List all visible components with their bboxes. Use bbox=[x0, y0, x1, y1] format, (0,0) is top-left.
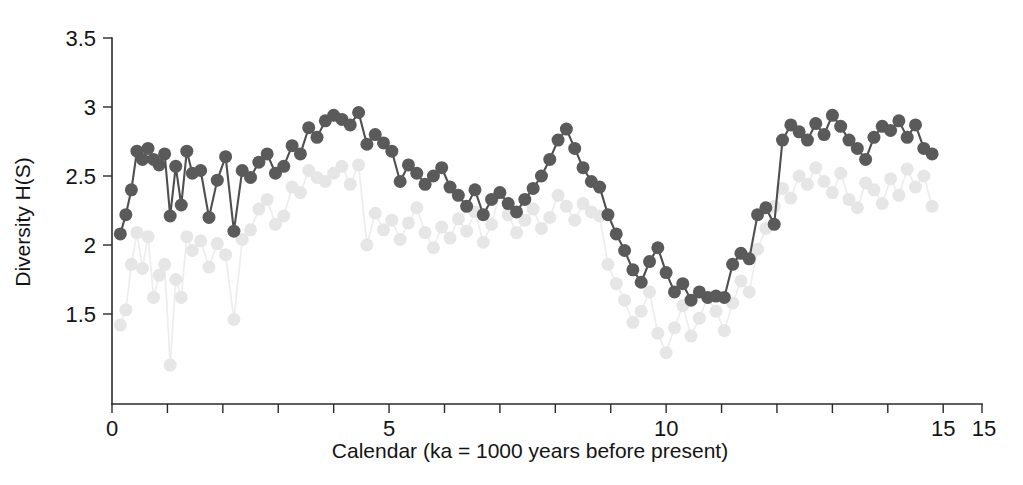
chart-canvas: 1.522.533.505101515 Calendar (ka = 1000 … bbox=[0, 0, 1023, 485]
data-point bbox=[635, 305, 648, 318]
data-point bbox=[352, 158, 365, 171]
data-point bbox=[543, 211, 556, 224]
data-point bbox=[577, 161, 590, 174]
data-point bbox=[142, 142, 155, 155]
axis-layer: 1.522.533.505101515 bbox=[65, 26, 996, 441]
data-point bbox=[834, 167, 847, 180]
data-point bbox=[410, 167, 423, 180]
data-point bbox=[202, 261, 215, 274]
data-point bbox=[125, 258, 138, 271]
data-point bbox=[909, 181, 922, 194]
data-point bbox=[410, 201, 423, 214]
data-point bbox=[158, 147, 171, 160]
data-point bbox=[618, 244, 631, 257]
data-point bbox=[277, 160, 290, 173]
data-point bbox=[668, 321, 681, 334]
data-point bbox=[568, 142, 581, 155]
data-point bbox=[834, 120, 847, 133]
data-point bbox=[718, 324, 731, 337]
data-point bbox=[493, 186, 506, 199]
data-point bbox=[892, 114, 905, 127]
data-point bbox=[211, 174, 224, 187]
data-point bbox=[477, 208, 490, 221]
x-tick-label: 5 bbox=[383, 416, 395, 441]
data-point bbox=[452, 212, 465, 225]
data-point bbox=[685, 330, 698, 343]
data-point bbox=[142, 230, 155, 243]
data-point bbox=[651, 327, 664, 340]
data-point bbox=[394, 175, 407, 188]
data-point bbox=[158, 258, 171, 271]
data-point bbox=[851, 201, 864, 214]
data-point bbox=[344, 118, 357, 131]
data-point bbox=[693, 312, 706, 325]
data-point bbox=[261, 193, 274, 206]
data-point bbox=[560, 200, 573, 213]
data-point bbox=[543, 153, 556, 166]
data-point bbox=[114, 319, 127, 332]
data-point bbox=[560, 123, 573, 136]
data-point bbox=[892, 189, 905, 202]
data-point bbox=[926, 147, 939, 160]
data-point bbox=[552, 134, 565, 147]
data-point bbox=[926, 200, 939, 213]
data-point bbox=[818, 175, 831, 188]
data-point bbox=[227, 313, 240, 326]
data-point bbox=[626, 263, 639, 276]
data-point bbox=[909, 118, 922, 131]
data-point bbox=[610, 277, 623, 290]
data-point bbox=[219, 150, 232, 163]
data-point bbox=[518, 193, 531, 206]
data-point bbox=[136, 153, 149, 166]
data-point bbox=[147, 291, 160, 304]
x-tick-label: 15 bbox=[931, 416, 955, 441]
data-point bbox=[809, 117, 822, 130]
data-point bbox=[768, 218, 781, 231]
data-point bbox=[153, 269, 166, 282]
data-point bbox=[194, 164, 207, 177]
data-point bbox=[601, 258, 614, 271]
data-point bbox=[568, 214, 581, 227]
data-point bbox=[867, 131, 880, 144]
data-point bbox=[180, 145, 193, 158]
data-point bbox=[435, 221, 448, 234]
data-point bbox=[219, 248, 232, 261]
data-point bbox=[153, 158, 166, 171]
data-point bbox=[784, 192, 797, 205]
data-point bbox=[227, 225, 240, 238]
data-point bbox=[394, 233, 407, 246]
y-tick-label: 1.5 bbox=[65, 302, 96, 327]
data-point bbox=[244, 223, 257, 236]
data-point bbox=[510, 226, 523, 239]
x-axis-title: Calendar (ka = 1000 years before present… bbox=[332, 439, 728, 462]
data-point bbox=[369, 207, 382, 220]
data-point bbox=[643, 255, 656, 268]
data-point bbox=[180, 230, 193, 243]
data-point bbox=[360, 239, 373, 252]
data-point bbox=[164, 210, 177, 223]
data-point bbox=[867, 183, 880, 196]
data-point bbox=[726, 258, 739, 271]
data-point bbox=[194, 234, 207, 247]
data-point bbox=[593, 181, 606, 194]
data-point bbox=[136, 262, 149, 275]
data-point bbox=[344, 178, 357, 191]
data-point bbox=[460, 200, 473, 213]
data-point bbox=[610, 227, 623, 240]
data-point bbox=[618, 294, 631, 307]
data-point bbox=[114, 227, 127, 240]
data-point bbox=[876, 197, 889, 210]
data-point bbox=[809, 161, 822, 174]
x-tick-label: 10 bbox=[654, 416, 678, 441]
data-point bbox=[743, 252, 756, 265]
y-tick-label: 2.5 bbox=[65, 164, 96, 189]
data-point bbox=[435, 161, 448, 174]
data-point bbox=[801, 178, 814, 191]
data-point bbox=[385, 214, 398, 227]
data-point bbox=[851, 142, 864, 155]
data-point bbox=[202, 211, 215, 224]
data-point bbox=[294, 186, 307, 199]
data-point bbox=[759, 201, 772, 214]
data-point bbox=[444, 232, 457, 245]
data-point bbox=[743, 285, 756, 298]
